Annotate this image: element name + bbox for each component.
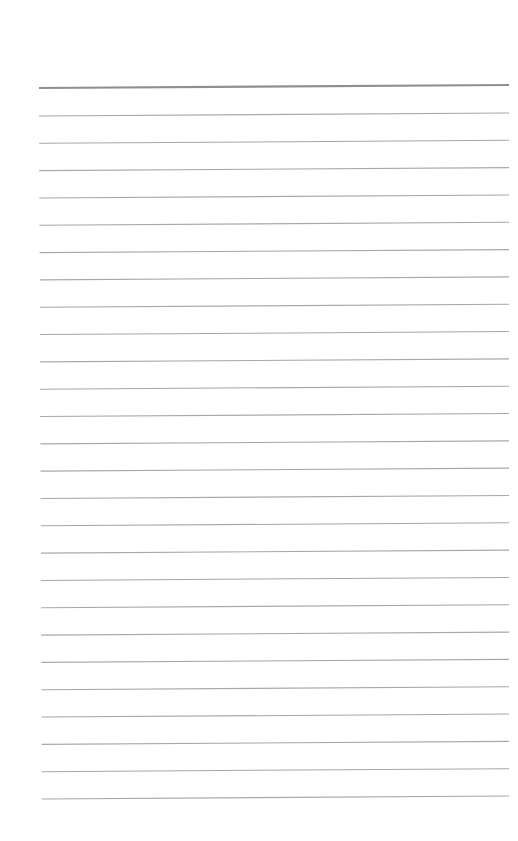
ruled-line <box>40 441 509 444</box>
ruled-lines <box>0 0 518 841</box>
ruled-line <box>41 659 509 662</box>
ruled-line <box>39 168 509 171</box>
ruled-line <box>39 140 509 143</box>
ruled-line <box>39 113 509 116</box>
ruled-line <box>40 386 509 389</box>
ruled-line <box>41 687 509 690</box>
ruled-line <box>42 714 509 717</box>
ruled-line <box>40 332 509 335</box>
ruled-line <box>41 550 509 553</box>
ruled-line <box>41 523 509 526</box>
ruled-line <box>40 414 509 417</box>
header-rule-line <box>39 85 509 88</box>
ruled-line <box>41 632 509 635</box>
ruled-line <box>42 769 509 772</box>
ruled-line <box>40 277 509 280</box>
ruled-line <box>41 577 509 580</box>
ruled-line <box>39 195 509 198</box>
ruled-line <box>41 605 509 608</box>
ruled-line <box>40 250 509 253</box>
lined-paper-page <box>0 0 518 841</box>
ruled-line <box>42 741 509 744</box>
ruled-line <box>41 468 510 471</box>
ruled-line <box>42 796 509 799</box>
ruled-line <box>41 495 509 498</box>
ruled-line <box>39 222 509 225</box>
ruled-line <box>40 304 509 307</box>
ruled-line <box>40 359 509 362</box>
